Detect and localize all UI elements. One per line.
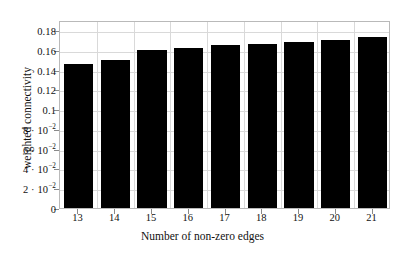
bar-15 xyxy=(137,50,166,208)
y-tick-label: 0.14 xyxy=(37,65,56,76)
bar-21 xyxy=(358,37,387,208)
bar-16 xyxy=(174,48,203,208)
bar-14 xyxy=(101,60,130,208)
x-tick-label: 17 xyxy=(219,212,230,223)
y-tick-label: 0 xyxy=(51,204,56,215)
x-tick-label: 16 xyxy=(182,212,193,223)
x-axis-title: Number of non-zero edges xyxy=(0,230,405,242)
bar-series xyxy=(60,22,389,208)
bar-20 xyxy=(321,40,350,208)
y-axis-title: weighted connectivity xyxy=(21,43,33,193)
y-tick-label: 0.12 xyxy=(37,85,56,96)
x-tick-label: 13 xyxy=(72,212,83,223)
x-tick-label: 15 xyxy=(146,212,157,223)
y-tick-label: 0.16 xyxy=(37,45,56,56)
x-tick-label: 20 xyxy=(330,212,341,223)
plot-area xyxy=(59,21,390,209)
bar-19 xyxy=(284,42,313,208)
bar-13 xyxy=(64,64,93,209)
x-tick-label: 19 xyxy=(293,212,304,223)
x-tick-label: 14 xyxy=(109,212,120,223)
bar-17 xyxy=(211,45,240,208)
x-tick-label: 18 xyxy=(256,212,267,223)
y-tick-label: 0.18 xyxy=(37,25,56,36)
y-tick-label: 0.1 xyxy=(43,105,56,116)
bar-chart-figure: 0.180.160.140.120.18 · 10−26 · 10−24 · 1… xyxy=(0,0,405,260)
x-tick-label: 21 xyxy=(366,212,377,223)
bar-18 xyxy=(248,44,277,208)
